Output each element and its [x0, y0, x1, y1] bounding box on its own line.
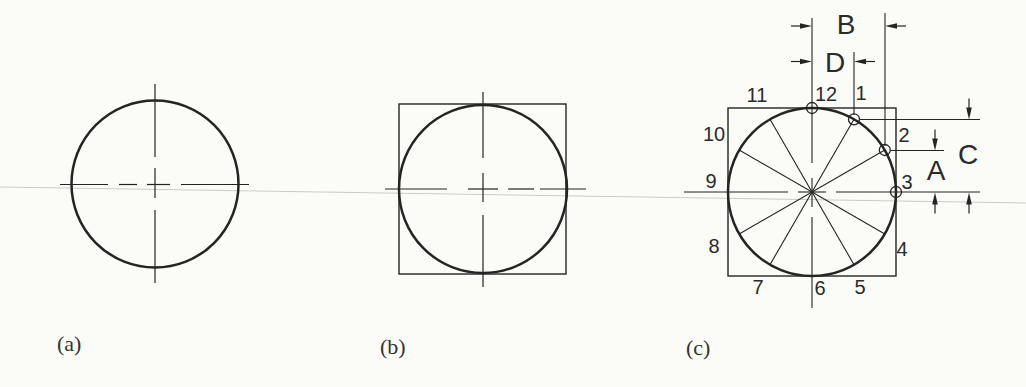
dim-a-top-arrow-icon — [932, 130, 938, 151]
figure-a: (a) — [57, 84, 249, 356]
scanned-drawing-page: (a) (b) — [0, 0, 1026, 387]
dim-b-right-arrow-icon — [885, 23, 906, 29]
dim-a-bottom-arrow-icon — [932, 193, 938, 214]
figure-c: B D C A 1 2 3 4 5 6 7 8 9 10 11 12 (c) — [684, 9, 980, 360]
figure-c-caption: (c) — [686, 335, 710, 360]
dimension-label-b: B — [837, 9, 856, 40]
clock-label-2: 2 — [898, 124, 909, 146]
clock-label-6: 6 — [814, 277, 825, 299]
clock-label-7: 7 — [752, 276, 763, 298]
clock-label-12: 12 — [815, 83, 837, 105]
clock-label-11: 11 — [747, 84, 768, 106]
clock-label-8: 8 — [708, 235, 719, 257]
figure-a-caption: (a) — [57, 331, 81, 356]
clock-label-9: 9 — [705, 170, 716, 192]
clock-label-4: 4 — [896, 238, 907, 260]
dim-c-top-arrow-icon — [966, 99, 972, 120]
dim-c-bottom-arrow-icon — [966, 193, 972, 214]
clock-label-3: 3 — [901, 171, 912, 193]
dimension-label-a: A — [927, 155, 946, 186]
dim-d-left-arrow-icon — [791, 59, 812, 65]
clock-label-1: 1 — [855, 82, 866, 104]
figure-b-caption: (b) — [380, 334, 406, 359]
dimension-label-c: C — [958, 139, 978, 170]
dim-d-right-arrow-icon — [854, 59, 875, 65]
clock-label-5: 5 — [854, 276, 865, 298]
figure-b: (b) — [380, 92, 586, 359]
clock-label-10: 10 — [703, 123, 725, 145]
dim-b-left-arrow-icon — [791, 23, 812, 29]
dimension-label-d: D — [825, 47, 845, 78]
